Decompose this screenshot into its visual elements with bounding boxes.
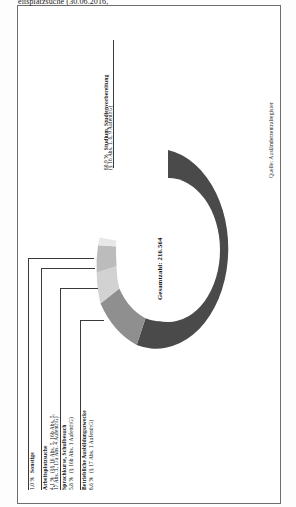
- label-sonstige-pct: 1,0 %: [29, 477, 35, 490]
- label-sprachkurse-par-wrap: 5,8 % (§ 16b Abs. 1 AufenthG): [65, 417, 74, 490]
- leader-line-sprachkurse-h: [60, 288, 98, 289]
- label-ausbildung-par-wrap: 8,6 % (§ 17 Abs. 1 AufenthG): [85, 420, 94, 490]
- cut-off-headline: eitsplatzsuche (30.06.2016,: [18, 0, 278, 6]
- donut-chart: [92, 147, 244, 353]
- leader-line-ausbildung-h: [80, 320, 104, 321]
- center-total-label: Gesamtzahl: 216.564: [156, 238, 163, 300]
- page-root: eitsplatzsuche (30.06.2016, Gesamtzahl: …: [0, 0, 296, 507]
- label-ausbildung-paragraph: (§ 17 Abs. 1 AufenthG): [88, 420, 94, 473]
- donut-hole: [116, 178, 220, 322]
- donut-svg: [92, 147, 244, 353]
- label-sprachkurse-pct: 5,8 %: [68, 477, 74, 490]
- label-ausbildung-pct: 8,6 %: [88, 477, 94, 490]
- label-sonstige-name: Sonstige: [29, 452, 35, 473]
- label-studium-par-wrap: (§ 16 Abs. 1, 6, 9 AufenthG): [107, 106, 113, 170]
- source-note: Quelle: Ausländerzentralregister: [268, 102, 274, 178]
- leader-line-sonstige-h: [28, 258, 94, 259]
- slice-sonstige: [98, 238, 119, 247]
- label-studium-paragraph: (§ 16 Abs. 1, 6, 9 AufenthG): [107, 106, 113, 170]
- leader-line-arbeitsplatzsuche-h: [41, 268, 95, 269]
- label-sprachkurse-paragraph: (§ 16b Abs. 1 AufenthG): [68, 417, 74, 473]
- label-sonstige: 1,0 % Sonstige: [26, 452, 35, 490]
